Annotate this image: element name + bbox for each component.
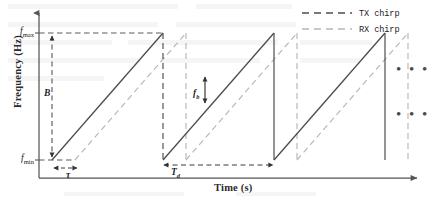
- tx-chirp-ramp-1: [52, 33, 163, 160]
- y-tick-fmin-sub: min: [24, 158, 34, 165]
- rx-chirp-ramp-2: [186, 33, 297, 160]
- y-axis-label: Frequency (Hz): [12, 34, 23, 110]
- beat-frequency-label: fb: [193, 88, 199, 100]
- y-tick-fmax: fmax: [0, 26, 34, 38]
- y-tick-fmin: fmin: [0, 153, 34, 165]
- rx-chirp-ramp-3: [297, 33, 408, 160]
- ellipsis-top: • • •: [396, 62, 429, 77]
- chirp-duration-label: Td: [171, 167, 180, 179]
- page-ghost-artifact: [8, 4, 372, 196]
- ellipsis-bottom: • • •: [396, 107, 429, 122]
- beat-frequency-label-sub: b: [196, 93, 199, 100]
- delay-label-base: τ: [66, 170, 70, 180]
- rx-chirp-series: [75, 33, 408, 160]
- tx-chirp-ramp-2: [163, 33, 274, 160]
- legend-swatches: [302, 13, 352, 29]
- delay-label: τ: [66, 170, 70, 180]
- legend-entry-tx-chirp: TX chirp: [359, 9, 399, 19]
- bandwidth-label-base: B: [44, 88, 50, 98]
- frequency-guide-lines: [35, 33, 163, 160]
- y-tick-fmax-sub: max: [23, 31, 34, 38]
- chirp-duration-label-sub: d: [177, 172, 180, 179]
- rx-chirp-ramp-1: [75, 33, 186, 160]
- x-axis-label: Time (s): [214, 182, 252, 193]
- bandwidth-label: B: [44, 88, 50, 98]
- fmcw-chirp-figure: Frequency (Hz) Time (s) fmax fmin B τ Td…: [0, 0, 434, 202]
- tx-chirp-ramp-3: [274, 33, 385, 160]
- legend-entry-rx-chirp: RX chirp: [359, 25, 399, 35]
- axis-lines: [39, 13, 417, 178]
- tx-chirp-series: [52, 33, 385, 160]
